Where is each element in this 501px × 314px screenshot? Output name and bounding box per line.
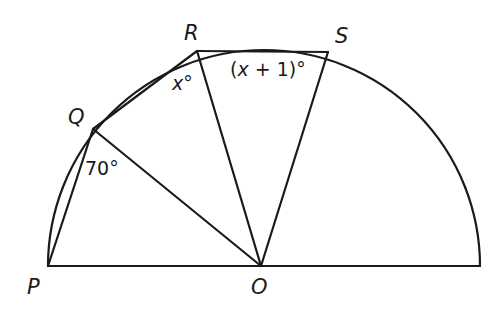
point-label-S: S — [335, 24, 348, 48]
point-label-R: R — [184, 21, 199, 45]
radius-SO — [261, 52, 328, 266]
semicircle-diagram: P O Q R S 70° x° (x + 1)° — [0, 0, 501, 314]
radius-QO — [93, 129, 261, 266]
point-label-Q: Q — [68, 105, 85, 129]
chord-RS — [197, 51, 328, 52]
point-label-P: P — [27, 275, 40, 299]
angle-label-QRO: x° — [171, 72, 193, 94]
angle-label-RSO: (x + 1)° — [230, 58, 306, 80]
chord-PQ — [48, 129, 93, 266]
angle-label-PQO: 70° — [85, 157, 119, 179]
point-label-O: O — [251, 275, 268, 299]
radius-RO — [197, 51, 261, 266]
